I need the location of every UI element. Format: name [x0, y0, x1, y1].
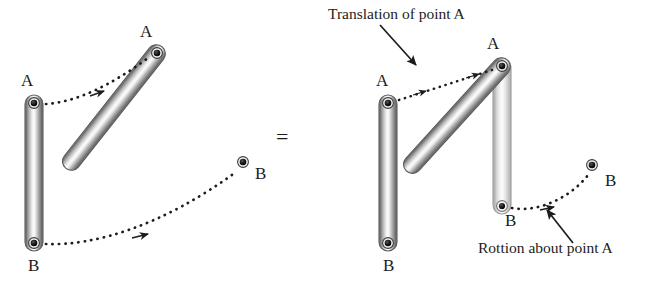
pivot-a [154, 50, 161, 57]
annotation-rotation: Rottion about point A [478, 240, 613, 256]
label-a-initial-right: A [376, 72, 388, 89]
pivot-b [499, 203, 505, 209]
pivot-a-shared [499, 63, 506, 70]
label-b-initial-left: B [28, 257, 39, 274]
figure-canvas: A B A B = A B A B B Translation of point… [0, 0, 654, 289]
rod-final-left [59, 41, 169, 174]
label-a-final-left: A [140, 23, 152, 40]
label-a-shared-right: A [487, 35, 499, 52]
right-panel-group [379, 25, 597, 251]
pivot-a [31, 100, 38, 107]
pivot-b [31, 240, 38, 247]
path-translation-a-arrow-1 [413, 91, 426, 95]
annotation-translation: Translation of point A [328, 6, 465, 22]
equals-sign: = [276, 126, 288, 148]
path-a-left-arrow [90, 91, 104, 96]
label-b-initial-right: B [383, 257, 394, 274]
path-translation-a-arrow-2 [466, 74, 479, 78]
rod-body [25, 95, 43, 251]
translation-leader-arrow [380, 25, 416, 65]
rod-body [59, 41, 169, 174]
pivot-a [385, 100, 392, 107]
pivot-b-rotated [589, 162, 596, 169]
pivot-b [240, 159, 247, 166]
label-a-initial-left: A [21, 72, 33, 89]
path-rotation-b-arrow [540, 207, 554, 210]
label-b-translated-right: B [505, 212, 516, 229]
path-rotation-b [512, 175, 588, 209]
rod-body [379, 95, 397, 251]
left-panel-group [25, 41, 248, 251]
label-b-rotated-right: B [605, 172, 616, 189]
path-b-left [46, 172, 236, 244]
path-b-left-arrow [132, 234, 148, 238]
pivot-b [385, 240, 392, 247]
rod-initial-right [379, 95, 397, 251]
label-b-final-left: B [255, 165, 266, 182]
rod-initial-left [25, 95, 43, 251]
